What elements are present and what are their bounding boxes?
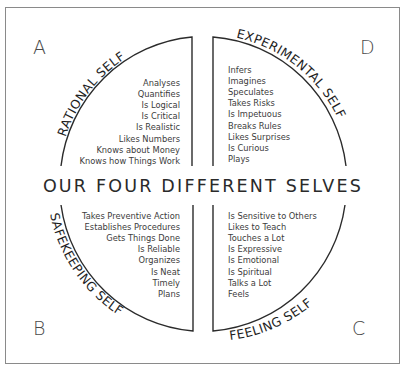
trait-item: Is Critical bbox=[142, 111, 180, 121]
trait-item: Organizes bbox=[139, 255, 181, 265]
label-rational-self: RATIONAL SELF bbox=[54, 48, 127, 138]
experimental-self-traits: InfersImaginesSpeculatesTakes RisksIs Im… bbox=[227, 65, 290, 164]
trait-item: Establishes Procedures bbox=[85, 222, 180, 232]
trait-item: Gets Things Done bbox=[106, 233, 180, 243]
trait-item: Talks a Lot bbox=[227, 278, 272, 288]
trait-item: Plans bbox=[158, 289, 180, 299]
trait-item: Timely bbox=[151, 278, 180, 288]
rational-self-traits: AnalysesQuantifiesIs LogicalIs CriticalI… bbox=[80, 78, 181, 166]
trait-item: Is Emotional bbox=[228, 255, 279, 265]
trait-item: Analyses bbox=[143, 78, 180, 88]
trait-item: Plays bbox=[228, 154, 250, 164]
quadrant-letter-b: B bbox=[33, 317, 45, 339]
trait-item: Is Neat bbox=[151, 267, 181, 277]
trait-item: Likes Numbers bbox=[119, 134, 180, 144]
trait-item: Is Curious bbox=[228, 143, 269, 153]
trait-item: Is Reliable bbox=[138, 244, 180, 254]
trait-item: Takes Preventive Action bbox=[81, 211, 180, 221]
trait-item: Touches a Lot bbox=[227, 233, 285, 243]
trait-item: Speculates bbox=[228, 87, 274, 97]
trait-item: Likes Surprises bbox=[228, 132, 290, 142]
trait-item: Is Realistic bbox=[136, 122, 180, 132]
trait-item: Imagines bbox=[228, 76, 266, 86]
trait-item: Is Expressive bbox=[228, 244, 282, 254]
trait-item: Is Spiritual bbox=[228, 267, 272, 277]
quadrant-letter-a: A bbox=[33, 36, 46, 58]
trait-item: Knows how Things Work bbox=[80, 156, 181, 166]
feeling-self-traits: Is Sensitive to OthersLikes to TeachTouc… bbox=[227, 211, 317, 299]
four-selves-diagram: A D B C RATIONAL SELF EXPERIMENTAL SELF … bbox=[0, 0, 406, 370]
trait-item: Takes Risks bbox=[227, 98, 275, 108]
quadrant-letter-c: C bbox=[352, 317, 365, 339]
label-feeling-self: FEELING SELF bbox=[228, 295, 315, 343]
diagram-title: OUR FOUR DIFFERENT SELVES bbox=[43, 176, 363, 196]
quadrant-letter-d: D bbox=[360, 36, 375, 58]
trait-item: Is Sensitive to Others bbox=[228, 211, 317, 221]
trait-item: Breaks Rules bbox=[228, 121, 281, 131]
trait-item: Knows about Money bbox=[96, 145, 180, 155]
trait-item: Is Impetuous bbox=[228, 109, 281, 119]
trait-item: Feels bbox=[228, 289, 249, 299]
trait-item: Infers bbox=[228, 65, 251, 75]
trait-item: Is Logical bbox=[142, 100, 180, 110]
trait-item: Quantifies bbox=[138, 89, 180, 99]
trait-item: Likes to Teach bbox=[228, 222, 286, 232]
